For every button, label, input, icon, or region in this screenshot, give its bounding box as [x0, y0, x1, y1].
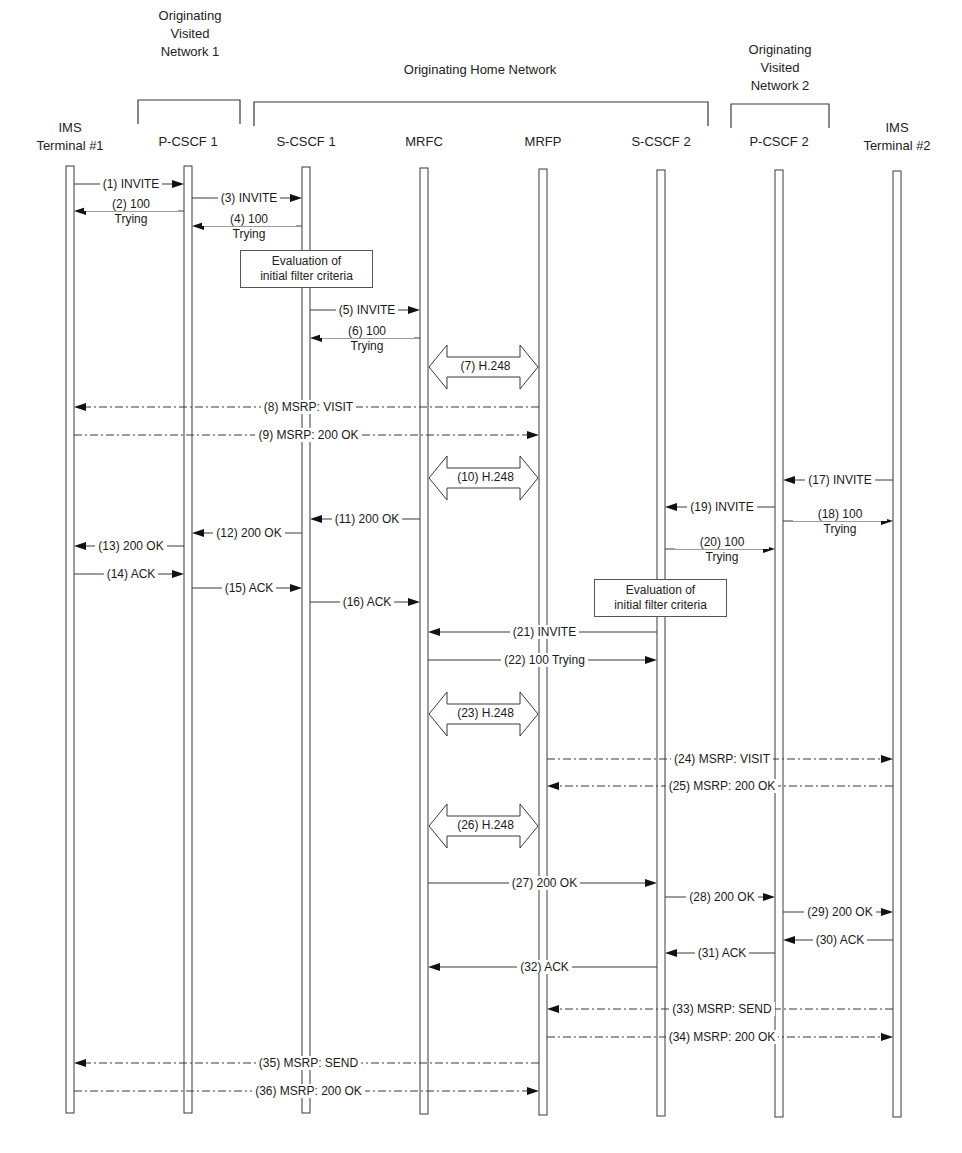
message-label-text: (32) ACK [517, 960, 572, 974]
message-label: Trying [202, 227, 296, 241]
message-label-text: (15) ACK [222, 581, 277, 595]
entity-label-s2: S-CSCF 2 [601, 134, 721, 150]
message-label-text: (28) 200 OK [686, 890, 757, 904]
message-label: (15) ACK [177, 581, 321, 595]
group-bracket-ohn [254, 102, 708, 126]
note-text: Evaluation of [595, 583, 726, 598]
message-label: (7) H.248 [434, 359, 538, 373]
group-label-ovn1: Originating [110, 8, 270, 24]
message-label: (18) 100 [793, 507, 887, 521]
message-label: (11) 200 OK [295, 512, 439, 526]
message-label-text: (33) MSRP: SEND [669, 1002, 774, 1016]
message-label-text: (34) MSRP: 200 OK [666, 1030, 779, 1044]
message-label: (33) MSRP: SEND [650, 1002, 794, 1016]
group-label-ohn: Originating Home Network [400, 62, 560, 78]
message-label: (34) MSRP: 200 OK [650, 1030, 794, 1044]
message-label: (4) 100 [202, 212, 296, 226]
message-label: (19) INVITE [650, 500, 794, 514]
message-label-text: (21) INVITE [510, 625, 579, 639]
arrowhead-icon [74, 1059, 86, 1067]
message-label: (16) ACK [295, 595, 439, 609]
note-ifc1: Evaluation ofinitial filter criteria [240, 250, 373, 288]
entity-label-p2: P-CSCF 2 [719, 134, 839, 150]
entity-label-mrfc: MRFC [364, 134, 484, 150]
message-label: (32) ACK [473, 960, 617, 974]
message-label: (24) MSRP: VISIT [650, 752, 794, 766]
lifeline-p2 [775, 170, 783, 1117]
message-label: (30) ACK [768, 933, 912, 947]
lifeline-p1 [184, 166, 192, 1113]
message-label: (23) H.248 [434, 706, 538, 720]
entity-label-t2: IMS [837, 120, 957, 136]
message-label: (36) MSRP: 200 OK [237, 1084, 381, 1098]
message-label-text: (35) MSRP: SEND [256, 1056, 361, 1070]
arrowhead-icon [74, 403, 86, 411]
message-label-text: (24) MSRP: VISIT [671, 752, 773, 766]
message-label: Trying [793, 522, 887, 536]
arrowhead-icon [881, 1033, 893, 1041]
message-label-text: (29) 200 OK [804, 905, 875, 919]
entity-label-s1: S-CSCF 1 [246, 134, 366, 150]
message-label: (14) ACK [59, 567, 203, 581]
message-label-text: (9) MSRP: 200 OK [255, 428, 361, 442]
message-label: (8) MSRP: VISIT [237, 400, 381, 414]
message-label: (9) MSRP: 200 OK [237, 428, 381, 442]
message-label: (2) 100 [84, 197, 178, 211]
message-label-text: (16) ACK [340, 595, 395, 609]
message-label: (21) INVITE [473, 625, 617, 639]
group-label-ovn2: Network 2 [700, 78, 860, 94]
message-label: Trying [675, 550, 769, 564]
message-label-text: (36) MSRP: 200 OK [252, 1084, 365, 1098]
group-label-ovn1: Visited [110, 26, 270, 42]
arrowhead-icon [547, 1005, 559, 1013]
entity-label-t2: Terminal #2 [837, 138, 957, 154]
message-label-text: (31) ACK [695, 946, 750, 960]
note-text: initial filter criteria [595, 598, 726, 613]
message-label: (27) 200 OK [473, 876, 617, 890]
arrowhead-icon [645, 656, 657, 664]
entity-label-t1: IMS [10, 120, 130, 136]
message-label: (6) 100 [320, 324, 414, 338]
arrowhead-icon [428, 628, 440, 636]
message-label-text: (5) INVITE [336, 303, 399, 317]
lifeline-s2 [657, 170, 665, 1116]
message-label-text: (1) INVITE [100, 177, 163, 191]
message-label: (25) MSRP: 200 OK [650, 779, 794, 793]
message-label: (1) INVITE [59, 177, 203, 191]
arrowhead-icon [428, 963, 440, 971]
message-label: (12) 200 OK [177, 526, 321, 540]
arrowhead-icon [547, 782, 559, 790]
message-label-text: (13) 200 OK [95, 539, 166, 553]
message-label-text: (12) 200 OK [213, 526, 284, 540]
group-label-ovn2: Originating [700, 42, 860, 58]
message-label: (29) 200 OK [768, 905, 912, 919]
message-label-text: (11) 200 OK [332, 512, 402, 526]
message-label-text: (8) MSRP: VISIT [261, 400, 356, 414]
note-ifc2: Evaluation ofinitial filter criteria [594, 579, 727, 617]
group-label-ovn1: Network 1 [110, 44, 270, 60]
message-label-text: (27) 200 OK [509, 876, 580, 890]
arrowhead-icon [881, 755, 893, 763]
message-label: (22) 100 Trying [473, 653, 617, 667]
arrowhead-icon [645, 879, 657, 887]
message-label-text: (30) ACK [813, 933, 868, 947]
group-bracket-ovn2 [731, 104, 829, 128]
message-label: Trying [84, 212, 178, 226]
lifeline-t2 [893, 171, 901, 1117]
arrowhead-icon [527, 1087, 539, 1095]
message-label: (10) H.248 [434, 470, 538, 484]
group-label-ovn2: Visited [700, 60, 860, 76]
message-label-text: (19) INVITE [687, 500, 756, 514]
message-label: (20) 100 [675, 535, 769, 549]
lifeline-t1 [66, 166, 74, 1113]
message-label: (13) 200 OK [59, 539, 203, 553]
message-label: (17) INVITE [768, 473, 912, 487]
message-label: (3) INVITE [177, 191, 321, 205]
group-bracket-ovn1 [138, 100, 240, 124]
message-label-text: (17) INVITE [805, 473, 874, 487]
arrowhead-icon [527, 431, 539, 439]
entity-label-p1: P-CSCF 1 [128, 134, 248, 150]
entity-label-mrfp: MRFP [483, 134, 603, 150]
message-label: (5) INVITE [295, 303, 439, 317]
note-text: Evaluation of [241, 254, 372, 269]
